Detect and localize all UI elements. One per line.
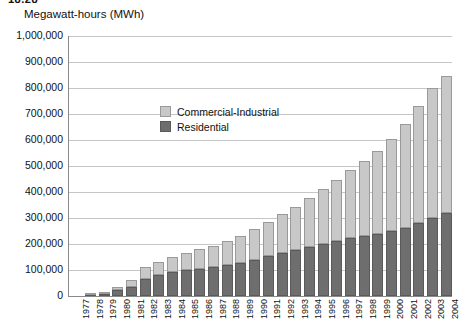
x-axis-tick-label: 1983 — [163, 299, 173, 329]
bar-segment-commercial-industrial — [372, 151, 383, 234]
legend-item-commercial-industrial: Commercial-Industrial — [160, 105, 279, 118]
bar-segment-commercial-industrial — [304, 198, 315, 247]
x-axis-tick-label: 2002 — [423, 299, 433, 329]
x-axis-tick-label: 1986 — [204, 299, 214, 329]
bar-segment-commercial-industrial — [263, 222, 274, 256]
bar-segment-commercial-industrial — [208, 246, 219, 267]
bar-segment-residential — [249, 260, 260, 296]
bar-segment-commercial-industrial — [318, 189, 329, 244]
y-axis-tick-label: 300,000 — [0, 211, 63, 223]
bar-segment-commercial-industrial — [167, 257, 178, 273]
bar-segment-commercial-industrial — [235, 236, 246, 263]
y-axis-tick-label: 1,000,000 — [0, 29, 63, 41]
x-axis-tick-label: 1989 — [245, 299, 255, 329]
bar-segment-residential — [304, 247, 315, 296]
chart-legend: Commercial-Industrial Residential — [160, 105, 279, 135]
x-axis-line — [69, 296, 452, 297]
bar-segment-residential — [290, 250, 301, 296]
x-axis-tick-label: 1979 — [108, 299, 118, 329]
x-axis-tick-label: 1998 — [368, 299, 378, 329]
x-axis-tick-label: 1990 — [259, 299, 269, 329]
legend-label: Residential — [177, 121, 229, 133]
bar-segment-commercial-industrial — [359, 161, 370, 236]
bar-segment-commercial-industrial — [427, 88, 438, 218]
bar-segment-commercial-industrial — [140, 267, 151, 278]
bar-segment-commercial-industrial — [249, 229, 260, 260]
y-axis-tick-label: 700,000 — [0, 107, 63, 119]
bar-segment-commercial-industrial — [181, 253, 192, 270]
x-axis-tick-label: 1982 — [149, 299, 159, 329]
bar-segment-residential — [427, 218, 438, 296]
x-axis-tick-label: 1999 — [382, 299, 392, 329]
bar-segment-commercial-industrial — [345, 170, 356, 238]
bar-segment-commercial-industrial — [331, 180, 342, 241]
bar-segment-residential — [208, 267, 219, 296]
bar-segment-residential — [235, 263, 246, 296]
bar-segment-commercial-industrial — [400, 124, 411, 228]
y-axis-tick-label: 200,000 — [0, 237, 63, 249]
bar-segment-residential — [413, 223, 424, 296]
bar-segment-residential — [99, 294, 110, 296]
x-axis-tick-label: 1981 — [136, 299, 146, 329]
bar-segment-residential — [222, 265, 233, 296]
bar-segment-residential — [153, 275, 164, 296]
bar-segment-residential — [331, 241, 342, 296]
bar-segment-commercial-industrial — [290, 207, 301, 251]
bar-segment-residential — [318, 244, 329, 296]
bar-segment-commercial-industrial — [99, 292, 110, 294]
x-axis-tick-label: 1978 — [95, 299, 105, 329]
bar-segment-residential — [194, 269, 205, 296]
y-axis-tick-label: 500,000 — [0, 159, 63, 171]
x-axis-tick-label: 1997 — [354, 299, 364, 329]
x-axis-labels: 1977197819791980198119821983198419851986… — [69, 299, 452, 332]
bar-segment-residential — [126, 287, 137, 296]
x-axis-tick-label: 2004 — [450, 299, 460, 329]
y-axis-tick-label: 400,000 — [0, 185, 63, 197]
x-axis-tick-label: 1993 — [300, 299, 310, 329]
y-axis-tick-label: 800,000 — [0, 81, 63, 93]
x-axis-tick-label: 1977 — [81, 299, 91, 329]
legend-swatch-icon — [160, 121, 171, 132]
bar-segment-commercial-industrial — [386, 139, 397, 231]
x-axis-tick-label: 1991 — [272, 299, 282, 329]
bar-segment-commercial-industrial — [112, 287, 123, 290]
bar-segment-residential — [263, 256, 274, 296]
bar-segment-residential — [167, 272, 178, 296]
x-axis-tick-label: 1980 — [122, 299, 132, 329]
bar-segment-residential — [112, 290, 123, 296]
legend-item-residential: Residential — [160, 120, 279, 133]
x-axis-tick-label: 2003 — [436, 299, 446, 329]
x-axis-tick-label: 1994 — [313, 299, 323, 329]
x-axis-tick-label: 1985 — [190, 299, 200, 329]
legend-swatch-icon — [160, 106, 171, 117]
bar-segment-commercial-industrial — [441, 76, 452, 214]
bar-segment-residential — [359, 236, 370, 296]
x-axis-tick-label: 1995 — [327, 299, 337, 329]
bar-segment-residential — [441, 213, 452, 296]
bar-segment-commercial-industrial — [85, 293, 96, 295]
bar-segment-residential — [277, 253, 288, 296]
bar-segment-residential — [372, 234, 383, 296]
bar-segment-commercial-industrial — [277, 214, 288, 253]
bar-series-group — [69, 36, 452, 296]
x-axis-tick-label: 2000 — [395, 299, 405, 329]
x-axis-tick-label: 1984 — [177, 299, 187, 329]
y-axis-tick-label: 900,000 — [0, 55, 63, 67]
y-axis-tick-label: 100,000 — [0, 263, 63, 275]
bar-segment-residential — [181, 270, 192, 296]
bar-segment-commercial-industrial — [153, 262, 164, 276]
legend-label: Commercial-Industrial — [177, 106, 279, 118]
x-axis-tick-label: 2001 — [409, 299, 419, 329]
bar-segment-residential — [400, 228, 411, 296]
x-axis-tick-label: 1992 — [286, 299, 296, 329]
bar-segment-commercial-industrial — [413, 106, 424, 223]
bar-segment-commercial-industrial — [126, 280, 137, 287]
bar-segment-residential — [386, 231, 397, 296]
y-axis-tick-label: 600,000 — [0, 133, 63, 145]
bar-segment-residential — [345, 238, 356, 296]
y-axis-tick-label: 0 — [0, 289, 63, 301]
x-axis-tick-label: 1987 — [218, 299, 228, 329]
bar-segment-commercial-industrial — [222, 241, 233, 265]
bar-segment-commercial-industrial — [194, 249, 205, 268]
